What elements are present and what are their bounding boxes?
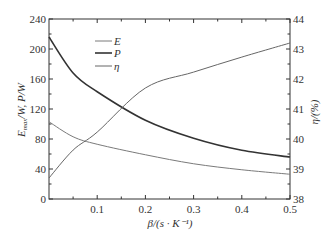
chart: 0.10.20.30.40.50408012016020024038394041… [0, 0, 332, 240]
plot-frame [49, 19, 290, 199]
y-tick-label: 80 [35, 133, 47, 145]
svg-text:Emax/W, P/W: Emax/W, P/W [15, 82, 29, 138]
y-axis-label-right: η/(%) [308, 99, 321, 124]
legend-label-eta: η [114, 60, 119, 72]
y-tick-label: 240 [30, 13, 47, 25]
y-tick-label-right: 44 [293, 13, 305, 25]
y-tick-label-right: 43 [293, 43, 305, 55]
y-tick-label: 0 [41, 193, 47, 205]
x-tick-label: 0.4 [235, 203, 249, 215]
x-tick-label: 0.1 [90, 203, 104, 215]
y-tick-label: 160 [30, 73, 47, 85]
x-axis-label: β/(s · K⁻¹) [146, 217, 192, 230]
y-tick-label-right: 42 [293, 73, 304, 85]
series-line-eta [49, 43, 290, 178]
svg-text:η/(%): η/(%) [308, 99, 321, 124]
y-label-sub: max [21, 118, 29, 131]
legend: E P η [95, 35, 121, 72]
x-tick-label: 0.2 [139, 203, 153, 215]
y-tick-label: 40 [35, 163, 47, 175]
y-tick-label: 200 [30, 43, 47, 55]
data-series [49, 37, 290, 178]
y-tick-label-right: 40 [293, 133, 305, 145]
y-tick-label-right: 38 [293, 193, 305, 205]
y-tick-label-right: 39 [293, 163, 305, 175]
axis-ticks: 0.10.20.30.40.50408012016020024038394041… [30, 13, 305, 215]
y-label-rest: /W, P/W [15, 82, 27, 119]
y-axis-label-left: Emax/W, P/W [15, 82, 29, 138]
y-tick-label-right: 41 [293, 103, 304, 115]
x-tick-label: 0.3 [187, 203, 201, 215]
legend-label-e: E [113, 35, 121, 47]
legend-label-p: P [113, 47, 121, 59]
y-tick-label: 120 [30, 103, 47, 115]
series-line-p [49, 37, 290, 157]
plot-axes [49, 19, 290, 199]
